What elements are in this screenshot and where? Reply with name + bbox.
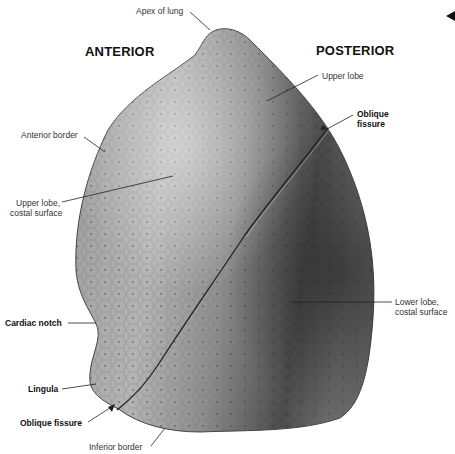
label-oblique-fissure-bottom: Oblique fissure [20, 418, 82, 428]
label-lower-lobe-costal-surface: Lower lobe, costal surface [395, 297, 447, 317]
label-inferior-border: Inferior border [89, 442, 142, 452]
label-lingula: Lingula [28, 384, 58, 394]
label-cardiac-notch: Cardiac notch [5, 318, 62, 328]
left-arrow-icon[interactable] [446, 11, 455, 21]
label-anterior-border: Anterior border [21, 130, 78, 140]
label-upper-lobe-costal-surface: Upper lobe, costal surface [10, 198, 60, 218]
lung-illustration [0, 0, 455, 454]
posterior-heading: POSTERIOR [316, 43, 394, 58]
lung-diagram: ANTERIOR POSTERIOR Apex of lung Upper lo… [0, 0, 455, 454]
label-apex-of-lung: Apex of lung [136, 6, 183, 16]
label-oblique-fissure-top: Oblique fissure [357, 109, 389, 129]
label-upper-lobe: Upper lobe [322, 71, 364, 81]
anterior-heading: ANTERIOR [85, 44, 155, 59]
